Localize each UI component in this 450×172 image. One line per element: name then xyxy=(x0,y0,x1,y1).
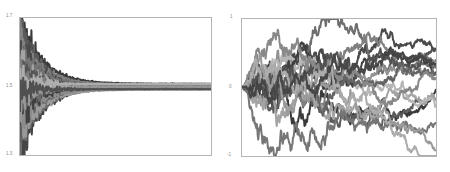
figure-two-panel-line-charts: 1.7 1.5 1.3 1 0 -1 xyxy=(0,0,450,172)
line-traces-left xyxy=(20,18,211,155)
line-traces-right xyxy=(242,19,436,156)
y-axis-tick-bottom-left: 1.3 xyxy=(6,152,12,157)
y-axis-tick-top-left: 1.7 xyxy=(6,14,12,19)
chart-panel-left: 1.7 1.5 1.3 xyxy=(0,0,225,172)
plot-area-left xyxy=(19,17,212,156)
y-axis-tick-middle-left: 1.5 xyxy=(6,84,12,89)
y-axis-tick-top-right: 1 xyxy=(230,15,233,20)
y-axis-tick-bottom-right: -1 xyxy=(227,153,231,158)
chart-panel-right: 1 0 -1 xyxy=(225,0,450,172)
y-axis-tick-middle-right: 0 xyxy=(229,85,232,90)
plot-area-right xyxy=(241,18,437,157)
